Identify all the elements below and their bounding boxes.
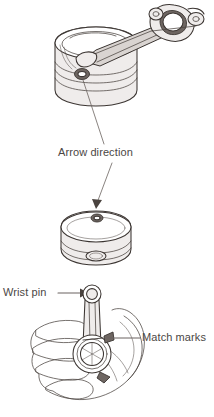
illustration-canvas xyxy=(0,0,214,417)
piston2-pin-bore xyxy=(86,251,106,261)
rod-cap-bolt-boss-2 xyxy=(97,372,110,383)
panel-hand-holding-assembly xyxy=(31,285,145,400)
label-wrist-pin: Wrist pin xyxy=(3,286,46,299)
wrist-pin-bore xyxy=(87,289,98,300)
piston2-crown-arrow-mark-inner xyxy=(94,216,100,220)
rod-bolt-boss-left xyxy=(149,8,163,20)
panel-piston-with-rod xyxy=(55,5,204,106)
arrow-direction-arrowhead xyxy=(92,199,102,209)
technical-illustration: Arrow direction Wrist pin Match marks xyxy=(0,0,214,417)
label-arrow-direction: Arrow direction xyxy=(58,146,133,159)
rod-bolt-boss-right xyxy=(188,13,204,26)
arrow-direction-leader-lower xyxy=(97,163,112,203)
piston-crown-arrow-mark-inner xyxy=(78,71,86,76)
label-match-marks: Match marks xyxy=(142,331,206,344)
panel-piston-crown xyxy=(61,211,131,265)
thumb-crease xyxy=(120,322,134,376)
finger-little xyxy=(46,379,93,399)
